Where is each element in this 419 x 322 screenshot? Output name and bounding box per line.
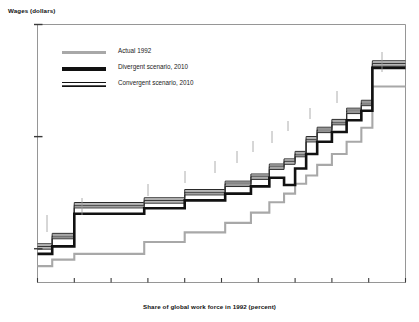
legend-swatch-actual [62, 51, 106, 54]
wages-step-chart: Wages (dollars) Share of global work for… [0, 0, 419, 322]
legend-swatch-divergent [62, 67, 106, 71]
legend-label-divergent: Divergent scenario, 2010 [118, 63, 188, 70]
legend-label-actual: Actual 1992 [118, 47, 151, 54]
legend-label-convergent: Convergent scenario, 2010 [118, 79, 194, 86]
plot-area [0, 0, 419, 322]
legend-swatch-convergent [62, 82, 106, 87]
